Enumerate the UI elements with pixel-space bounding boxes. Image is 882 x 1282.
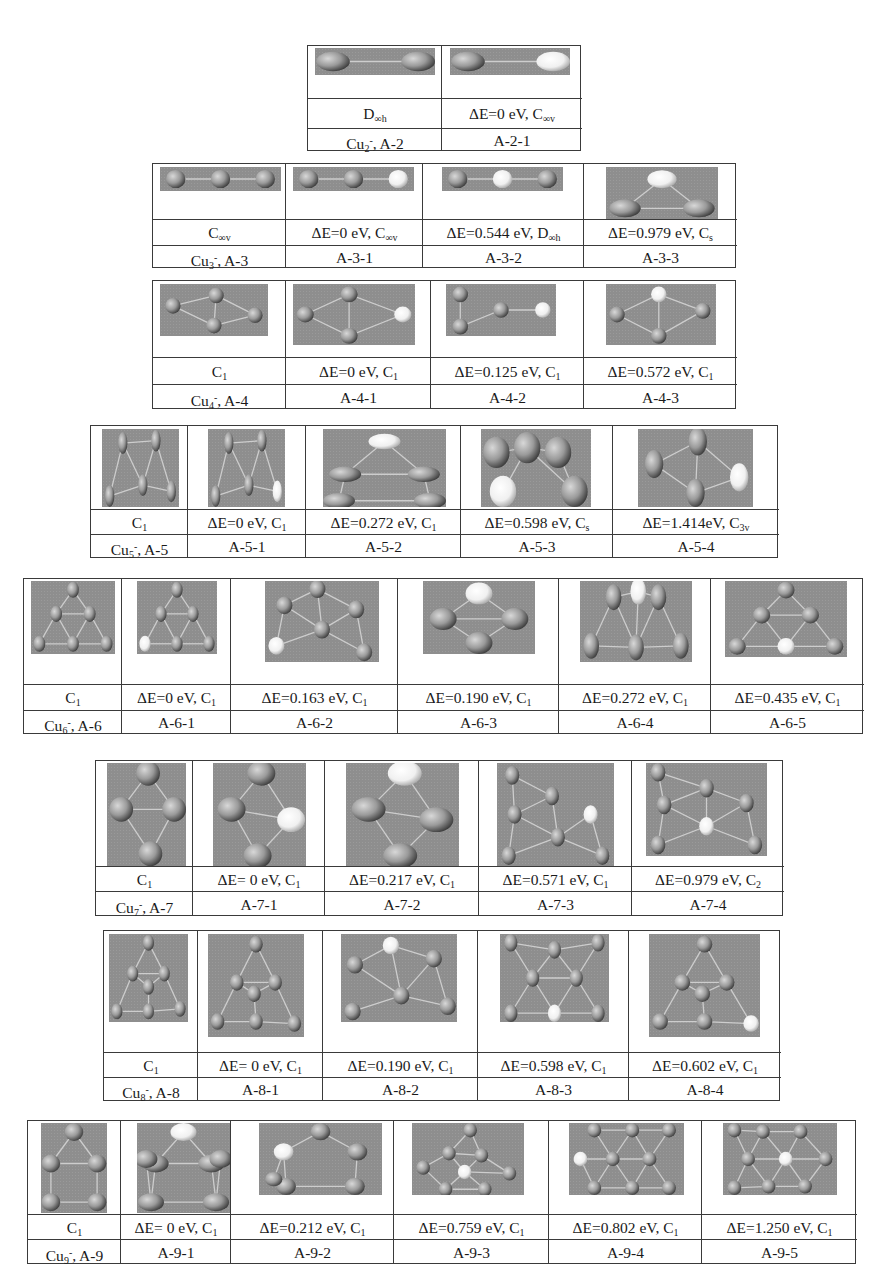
copper-atom [105,485,114,507]
molecule-structure-image [208,429,285,507]
highlighted-atom [277,807,305,832]
copper-atom [548,941,561,959]
highlighted-atom [584,805,598,824]
copper-atom [138,1193,164,1211]
copper-atom [127,966,138,982]
molecule-structure-image [137,1123,230,1213]
copper-atom [695,986,711,1002]
copper-atom [475,1148,488,1162]
molecule-structure-image [725,581,847,657]
highlighted-atom [699,817,714,836]
highlighted-atom [490,476,516,507]
copper-atom [155,606,166,622]
molecule-structure-image [31,581,115,654]
copper-atom [606,584,622,610]
copper-atom [344,1003,360,1021]
isomer-id-label: A-4-3 [584,384,737,410]
copper-atom [501,608,528,630]
copper-atom [65,1123,83,1141]
highlighted-atom [536,52,570,71]
copper-atom [645,450,663,478]
molecule-structure-image [423,581,535,654]
structure-cell: ΔE=1.250 eV, C1A-9-5 [701,1121,857,1263]
energy-symmetry-label: ΔE= 0 eV, C1 [121,1214,231,1240]
molecule-structure-image [446,284,556,336]
copper-atom [341,286,358,302]
symmetry-subscript: 1 [683,697,688,708]
copper-atom [67,582,79,598]
copper-atom [414,493,446,507]
copper-atom [453,319,468,335]
symmetry-subscript: 1 [281,522,286,533]
structure-cell: ΔE=0.759 eV, C1A-9-3 [393,1121,549,1263]
copper-atom [483,437,509,468]
copper-atom [249,1013,262,1029]
cluster-id: , A-3 [217,252,248,269]
molecule-structure-image [723,1123,837,1195]
highlighted-atom [651,286,666,302]
copper-atom [138,474,147,496]
symmetry-text: ΔE= 0 eV, C [135,1219,213,1236]
energy-symmetry-label: ΔE=0.190 eV, C1 [398,684,559,711]
symmetry-text: C [137,871,147,888]
copper-atom [347,956,363,974]
energy-symmetry-label: ΔE= 0 eV, C1 [193,866,325,892]
symmetry-subscript: 1 [147,879,152,890]
copper-atom [159,966,170,982]
molecule-structure-image [160,284,268,336]
copper-atom [762,1179,776,1193]
symmetry-text: C [67,1219,77,1236]
symmetry-text: D [363,105,374,122]
copper-atom [504,934,517,952]
copper-atom [695,303,710,319]
highlighted-atom [548,1004,561,1022]
copper-atom [592,934,605,952]
isomer-id-label: A-7-4 [632,891,784,917]
highlighted-atom [535,302,550,318]
copper-atom [211,485,220,507]
copper-atom [526,969,539,987]
copper-atom [344,170,363,188]
structure-cell: ΔE=0.217 eV, C1A-7-2 [324,761,479,915]
copper-atom [583,633,599,659]
isomer-id-label: A-2-1 [442,128,582,152]
symmetry-text: C [65,689,75,706]
cluster-table-a-6: C1Cu6-, A-6 ΔE=0 eV, C1A-6-1 ΔE=0.163 eV… [23,578,863,734]
copper-atom [311,1123,331,1140]
copper-atom [503,1166,516,1180]
copper-atom [165,298,180,314]
highlighted-atom [139,636,150,652]
isomer-id-label: A-8-1 [198,1077,323,1102]
molecule-structure-image [442,167,563,191]
symmetry-text: ΔE= 0 eV, C [218,871,296,888]
copper-atom [587,1123,601,1137]
symmetry-text: ΔE=0.571 eV, C [502,871,603,888]
copper-atom [657,796,672,815]
copper-atom [265,1172,282,1186]
structure-cell: ΔE=0 eV, C1A-4-1 [285,281,431,408]
energy-symmetry-label: ΔE=0.598 eV, Cs [461,509,613,535]
copper-atom [673,633,689,659]
copper-atom [592,1004,605,1022]
energy-symmetry-label: ΔE=0 eV, C1 [286,357,431,385]
copper-atom [329,466,361,482]
copper-atom [118,432,127,454]
copper-atom [595,846,609,865]
copper-atom [802,607,819,624]
structure-cell: ΔE=0.979 eV, C2A-7-4 [631,761,784,915]
copper-atom [151,430,160,452]
isomer-id-label: A-7-2 [325,891,479,917]
cluster-id: , A-4 [217,392,248,409]
energy-symmetry-label: ΔE=1.414eV, C3v [613,509,779,535]
energy-symmetry-label: ΔE=0.572 eV, C1 [584,357,737,385]
cluster-name-label: Cu8-, A-8 [104,1077,198,1102]
copper-atom [224,432,233,454]
symmetry-subscript: 1 [77,1227,82,1238]
energy-symmetry-label: ΔE=0.163 eV, C1 [231,684,398,711]
molecule-structure-image [293,167,414,191]
structure-cell: ΔE=0.190 eV, C1A-8-2 [322,931,478,1100]
copper-atom [244,474,253,496]
copper-atom [171,636,182,652]
copper-atom [211,170,230,188]
copper-atom [502,846,516,865]
